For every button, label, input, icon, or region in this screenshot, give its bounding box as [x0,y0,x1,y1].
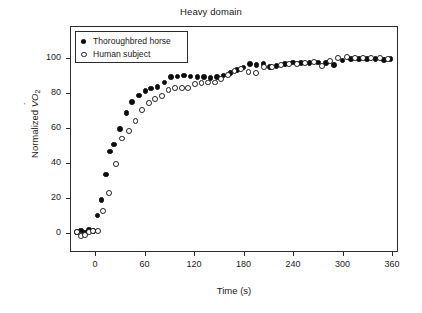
x-tick-mark [343,252,344,256]
y-axis-label-subscript: 2 [34,90,41,94]
chart-title: Heavy domain [0,6,422,17]
y-tick-mark [66,198,70,199]
x-tick-label: 360 [377,259,407,269]
open-circle-icon [81,52,93,58]
x-tick-mark [145,252,146,256]
legend-label-human: Human subject [93,48,150,61]
y-axis-label: Normalized VO2 [29,44,41,204]
legend: Thoroughbred horse Human subject [75,31,188,63]
x-tick-mark [293,252,294,256]
legend-label-horse: Thoroughbred horse [93,35,171,48]
chart-figure: Heavy domain 020406080100060120180240300… [0,0,422,313]
y-tick-mark [66,233,70,234]
v-dot-symbol: V [29,101,40,107]
y-tick-mark [66,128,70,129]
y-tick-mark [66,163,70,164]
y-tick-label: 0 [35,227,61,237]
x-axis-label: Time (s) [70,285,398,296]
x-tick-label: 180 [229,259,259,269]
y-tick-mark [66,58,70,59]
filled-circle-icon [81,39,93,44]
x-tick-mark [95,252,96,256]
x-tick-label: 0 [80,259,110,269]
x-tick-label: 120 [179,259,209,269]
x-tick-label: 240 [278,259,308,269]
x-tick-mark [392,252,393,256]
y-tick-mark [66,93,70,94]
x-tick-mark [244,252,245,256]
legend-entry-horse: Thoroughbred horse [81,35,183,48]
x-tick-label: 300 [328,259,358,269]
legend-entry-human: Human subject [81,48,183,61]
x-tick-label: 60 [130,259,160,269]
y-axis-label-prefix: Normalized [29,107,40,158]
x-tick-mark [194,252,195,256]
